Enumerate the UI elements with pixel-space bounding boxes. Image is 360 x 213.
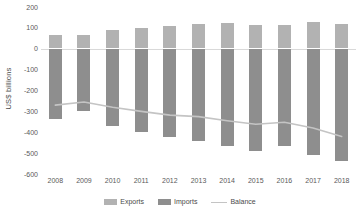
bar-column-2016 <box>278 7 291 174</box>
x-tick-2017: 2017 <box>299 176 327 186</box>
imports-bar-2018[interactable] <box>335 49 348 161</box>
legend-label-imports: Imports <box>174 198 197 206</box>
y-tick--300: -300 <box>24 108 38 115</box>
bar-column-2010 <box>106 7 119 174</box>
y-tick-100: 100 <box>26 24 38 31</box>
x-tick-2014: 2014 <box>213 176 241 186</box>
exports-bar-2013[interactable] <box>192 24 205 47</box>
imports-bar-2017[interactable] <box>307 49 320 154</box>
exports-bar-2016[interactable] <box>278 25 291 47</box>
chart-title-cropped <box>0 0 360 6</box>
exports-bar-2015[interactable] <box>249 25 262 48</box>
exports-bar-2011[interactable] <box>135 28 148 48</box>
y-axis-title: US$ billions <box>4 54 13 124</box>
y-tick--100: -100 <box>24 66 38 73</box>
x-tick-2008: 2008 <box>41 176 69 186</box>
bar-column-2011 <box>135 7 148 174</box>
exports-bar-2012[interactable] <box>163 26 176 47</box>
y-tick-200: 200 <box>26 4 38 11</box>
y-axis-tick-labels: 2001000-100-200-300-400-500-600 <box>14 0 38 213</box>
x-tick-2012: 2012 <box>156 176 184 186</box>
plot-area <box>41 7 356 174</box>
exports-bar-2014[interactable] <box>221 23 234 47</box>
bar-column-2017 <box>307 7 320 174</box>
imports-swatch-icon <box>158 199 171 205</box>
imports-bar-2008[interactable] <box>49 49 62 118</box>
imports-bar-2012[interactable] <box>163 49 176 137</box>
x-tick-2016: 2016 <box>270 176 298 186</box>
legend-item-balance[interactable]: Balance <box>211 198 255 206</box>
exports-bar-2008[interactable] <box>49 35 62 47</box>
y-tick-0: 0 <box>34 45 38 52</box>
legend-label-exports: Exports <box>120 198 144 206</box>
legend-item-exports[interactable]: Exports <box>104 198 144 206</box>
y-tick--400: -400 <box>24 129 38 136</box>
bar-column-2013 <box>192 7 205 174</box>
bar-column-2018 <box>335 7 348 174</box>
imports-bar-2016[interactable] <box>278 49 291 146</box>
y-tick--500: -500 <box>24 150 38 157</box>
x-tick-2015: 2015 <box>242 176 270 186</box>
imports-bar-2009[interactable] <box>77 49 90 111</box>
bar-column-2009 <box>77 7 90 174</box>
x-tick-2013: 2013 <box>185 176 213 186</box>
imports-bar-2015[interactable] <box>249 49 262 150</box>
bar-column-2015 <box>249 7 262 174</box>
exports-bar-2010[interactable] <box>106 30 119 47</box>
chart-legend: Exports Imports Balance <box>0 195 360 209</box>
exports-bar-2018[interactable] <box>335 24 348 48</box>
balance-line-swatch-icon <box>211 202 227 203</box>
imports-bar-2013[interactable] <box>192 49 205 140</box>
x-tick-2011: 2011 <box>127 176 155 186</box>
x-axis-tick-labels: 2008200920102011201220132014201520162017… <box>41 176 356 188</box>
x-tick-2009: 2009 <box>70 176 98 186</box>
bar-column-2012 <box>163 7 176 174</box>
legend-label-balance: Balance <box>230 198 255 206</box>
exports-swatch-icon <box>104 199 117 205</box>
bar-column-2008 <box>49 7 62 174</box>
x-tick-2018: 2018 <box>328 176 356 186</box>
x-tick-2010: 2010 <box>99 176 127 186</box>
imports-bar-2011[interactable] <box>135 49 148 132</box>
imports-bar-2014[interactable] <box>221 49 234 146</box>
exports-bar-2017[interactable] <box>307 22 320 48</box>
y-tick--200: -200 <box>24 87 38 94</box>
bar-column-2014 <box>221 7 234 174</box>
imports-bar-2010[interactable] <box>106 49 119 125</box>
bar-line-chart: US$ billions 2001000-100-200-300-400-500… <box>0 0 360 213</box>
legend-item-imports[interactable]: Imports <box>158 198 197 206</box>
y-tick--600: -600 <box>24 171 38 178</box>
exports-bar-2009[interactable] <box>77 35 90 47</box>
